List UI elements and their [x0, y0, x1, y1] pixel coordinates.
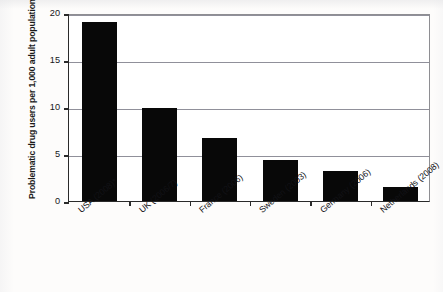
- y-tick-15: [64, 61, 69, 62]
- y-axis-label-0: 0: [38, 196, 60, 206]
- y-axis-label-5: 5: [38, 149, 60, 159]
- gridline-15: [69, 62, 429, 63]
- y-axis-title: Problematic drug users per 1,000 adult p…: [27, 3, 37, 199]
- chart-figure: Problematic drug users per 1,000 adult p…: [0, 0, 443, 292]
- plot-area: [68, 14, 430, 202]
- y-tick-20: [64, 14, 69, 15]
- x-axis-tick-labels: USA (2008)*UK (2006/7)France (2006)Swede…: [0, 207, 443, 292]
- gridline-20: [69, 15, 429, 16]
- y-axis-label-15: 15: [38, 55, 60, 65]
- bar: [82, 22, 117, 201]
- gridline-10: [69, 109, 429, 110]
- x-tick: [371, 201, 372, 206]
- x-tick: [129, 201, 130, 206]
- y-tick-0: [64, 202, 69, 203]
- x-tick: [310, 201, 311, 206]
- y-axis-label-20: 20: [38, 8, 60, 18]
- chart-title: [96, 0, 396, 4]
- y-tick-5: [64, 155, 69, 156]
- y-axis-label-10: 10: [38, 102, 60, 112]
- x-tick: [190, 201, 191, 206]
- x-tick: [250, 201, 251, 206]
- gridline-5: [69, 156, 429, 157]
- y-tick-10: [64, 108, 69, 109]
